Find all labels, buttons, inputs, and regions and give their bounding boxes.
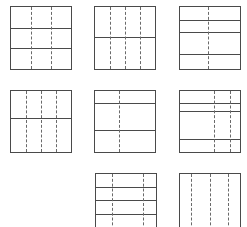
dashed-vertical-line	[140, 7, 141, 69]
dashed-vertical-line	[143, 174, 144, 227]
solid-horizontal-line	[180, 111, 240, 112]
dashed-vertical-line	[214, 91, 215, 152]
dashed-vertical-line	[31, 7, 32, 69]
dashed-vertical-line	[41, 91, 42, 152]
dashed-vertical-line	[26, 91, 27, 152]
grid-square-r1c3	[179, 6, 241, 70]
grid-square-r2c1	[10, 90, 72, 153]
dashed-vertical-line	[51, 7, 52, 69]
dashed-vertical-line	[210, 174, 211, 227]
solid-horizontal-line	[180, 32, 240, 33]
solid-horizontal-line	[180, 54, 240, 55]
dashed-vertical-line	[230, 91, 231, 152]
solid-horizontal-line	[95, 130, 155, 131]
grid-square-r1c1	[10, 6, 72, 70]
dashed-vertical-line	[191, 174, 192, 227]
solid-horizontal-line	[96, 214, 156, 215]
solid-horizontal-line	[11, 48, 71, 49]
dashed-vertical-line	[119, 91, 120, 152]
grid-square-r2c3	[179, 90, 241, 153]
dashed-vertical-line	[208, 7, 209, 69]
solid-horizontal-line	[96, 187, 156, 188]
grid-square-r3c3	[179, 173, 241, 227]
dashed-vertical-line	[125, 7, 126, 69]
solid-horizontal-line	[11, 28, 71, 29]
solid-horizontal-line	[96, 200, 156, 201]
dashed-vertical-line	[112, 174, 113, 227]
solid-horizontal-line	[180, 139, 240, 140]
solid-horizontal-line	[180, 20, 240, 21]
grid-square-r1c2	[94, 6, 156, 70]
grid-square-r3c2	[95, 173, 157, 227]
grid-square-r2c2	[94, 90, 156, 153]
dashed-vertical-line	[110, 7, 111, 69]
dashed-vertical-line	[56, 91, 57, 152]
solid-horizontal-line	[95, 103, 155, 104]
dashed-vertical-line	[228, 174, 229, 227]
solid-horizontal-line	[180, 103, 240, 104]
